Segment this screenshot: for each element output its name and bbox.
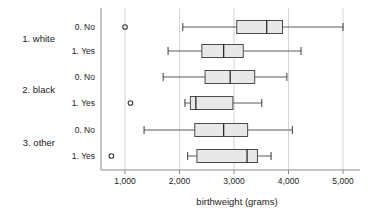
y-group-label-1-white: 1. white [22, 33, 55, 44]
boxplot-series-layer [109, 21, 343, 163]
x-tick-label-4000: 4,000 [278, 176, 300, 186]
chart-container: 0. No1. Yes0. No1. Yes0. No1. Yes1. whit… [0, 0, 375, 212]
boxplot-figure: 0. No1. Yes0. No1. Yes0. No1. Yes1. whit… [0, 0, 375, 212]
box-iqr-rect [195, 124, 248, 137]
y-group-label-3-other: 3. other [23, 137, 55, 148]
box-2-black-0-no [163, 71, 287, 84]
gridlines-layer [125, 8, 343, 170]
axis-spines-layer [101, 8, 360, 170]
box-1-white-1-yes [168, 45, 301, 58]
x-tick-label-2000: 2,000 [169, 176, 191, 186]
y-sub-label-1-yes-5: 1. Yes [72, 151, 95, 161]
box-iqr-rect [202, 45, 243, 58]
outlier-point [128, 101, 133, 106]
y-axis-labels-layer: 0. No1. Yes0. No1. Yes0. No1. Yes1. whit… [22, 22, 95, 161]
y-sub-label-0-no-2: 0. No [75, 72, 96, 82]
y-sub-label-1-yes-1: 1. Yes [72, 46, 95, 56]
y-sub-label-0-no-0: 0. No [75, 22, 96, 32]
box-3-other-0-no [144, 124, 292, 137]
box-iqr-rect [190, 97, 233, 110]
x-axis-labels-layer: 1,0002,0003,0004,0005,000 [114, 176, 354, 186]
box-iqr-rect [237, 21, 283, 34]
tickmarks-layer [125, 170, 343, 174]
y-sub-label-0-no-4: 0. No [75, 125, 96, 135]
x-tick-label-1000: 1,000 [114, 176, 136, 186]
outlier-point [109, 154, 114, 159]
box-2-black-1-yes [128, 97, 262, 110]
y-group-label-2-black: 2. black [22, 84, 55, 95]
box-1-white-0-no [123, 21, 343, 34]
x-tick-label-5000: 5,000 [332, 176, 354, 186]
box-3-other-1-yes [109, 150, 271, 163]
y-sub-label-1-yes-3: 1. Yes [72, 98, 95, 108]
box-iqr-rect [197, 150, 257, 163]
x-tick-label-3000: 3,000 [223, 176, 245, 186]
x-axis-title: birthweight (grams) [196, 196, 277, 207]
